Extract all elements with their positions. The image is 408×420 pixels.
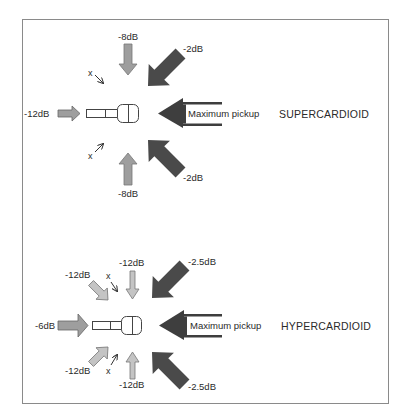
rear-upper-level-label: -12dB [65, 269, 90, 280]
null-marker-lower: x [88, 151, 93, 161]
null-marker-upper: x [88, 68, 93, 78]
front-lower-level-label: -2dB [183, 172, 203, 183]
pattern-title: HYPERCARDIOID [281, 320, 371, 332]
rear-lower-level-label: -12dB [65, 365, 90, 376]
null-marker-upper: x [106, 271, 111, 281]
null-marker-lower: x [106, 366, 111, 376]
front-lower-level-label: -2.5dB [188, 381, 216, 392]
top-level-label: -12dB [119, 257, 144, 268]
bottom-level-label: -8dB [118, 188, 138, 199]
front-upper-level-label: -2dB [183, 43, 203, 54]
polar-pattern-diagram: -12dB -8dB -8dB x x -2dB -2dB [0, 0, 408, 420]
rear-level-label: -12dB [24, 108, 49, 119]
rear-level-label: -6dB [35, 320, 55, 331]
front-upper-level-label: -2.5dB [188, 256, 216, 267]
top-level-label: -8dB [118, 31, 138, 42]
maximum-pickup-label: Maximum pickup [190, 320, 261, 331]
maximum-pickup-label: Maximum pickup [188, 108, 259, 119]
bottom-level-label: -12dB [119, 379, 144, 390]
pattern-title: SUPERCARDIOID [279, 108, 369, 120]
diagram-frame [23, 20, 389, 404]
